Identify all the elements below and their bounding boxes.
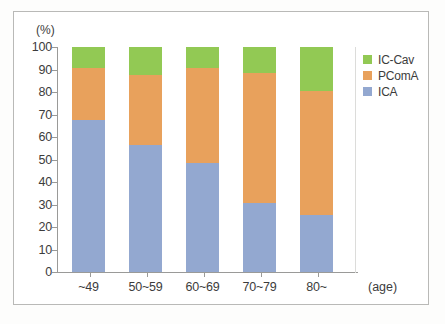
bar-segment-ica (300, 215, 333, 272)
bar-segment-pcoma (300, 91, 333, 215)
y-tick-label-row: 70 (16, 109, 52, 121)
legend-swatch-icon (363, 71, 372, 80)
bar-segment-pcoma (72, 68, 105, 120)
y-tick-label: 70 (22, 109, 52, 122)
x-tick-label: 70~79 (230, 281, 290, 294)
legend-label: PComA (378, 70, 418, 82)
x-tick-mark (204, 272, 205, 277)
stacked-bar (300, 47, 333, 272)
legend-label: ICA (378, 86, 397, 98)
y-tick-mark (52, 92, 57, 93)
y-tick-label-row: 80 (16, 86, 52, 98)
y-tick-label: 50 (22, 154, 52, 167)
y-tick-label-row: 30 (16, 199, 52, 211)
bar-segment-ic-cav (186, 47, 219, 68)
x-tick-mark (318, 272, 319, 277)
x-axis-line (57, 272, 358, 273)
y-tick-label: 100 (22, 41, 52, 54)
y-tick-label: 10 (22, 244, 52, 257)
stacked-bar (129, 47, 162, 272)
y-tick-label-row: 100 (16, 41, 52, 53)
y-axis-line (57, 47, 58, 273)
y-tick-mark (52, 115, 57, 116)
y-tick-label-row: 90 (16, 64, 52, 76)
y-tick-label: 90 (22, 64, 52, 77)
y-tick-mark (52, 205, 57, 206)
bar-segment-ica (243, 203, 276, 272)
x-axis-unit-label: (age) (368, 281, 397, 294)
y-tick-label: 40 (22, 176, 52, 189)
stacked-bar (72, 47, 105, 272)
legend-item-ica[interactable]: ICA (363, 84, 425, 99)
x-tick-mark (147, 272, 148, 277)
y-tick-label-row: 20 (16, 221, 52, 233)
legend-swatch-icon (363, 55, 372, 64)
bar-segment-ica (72, 120, 105, 272)
y-tick-label-row: 50 (16, 154, 52, 166)
y-tick-label: 80 (22, 86, 52, 99)
x-tick-label: ~49 (59, 281, 119, 294)
x-tick-label: 60~69 (173, 281, 233, 294)
bar-segment-ica (129, 145, 162, 272)
x-tick-label: 50~59 (116, 281, 176, 294)
x-tick-label: 80~ (287, 281, 347, 294)
legend-label: IC-Cav (378, 54, 414, 66)
stacked-bar (186, 47, 219, 272)
chart-figure: (%) 0102030405060708090100 ~4950~5960~69… (0, 0, 445, 324)
bar-segment-pcoma (186, 68, 219, 163)
bar-segment-ic-cav (243, 47, 276, 73)
bar-segment-pcoma (243, 73, 276, 203)
y-tick-mark (52, 272, 57, 273)
bar-segment-ic-cav (129, 47, 162, 75)
y-tick-mark (52, 70, 57, 71)
legend-swatch-icon (363, 87, 372, 96)
y-tick-label-row: 60 (16, 131, 52, 143)
y-tick-label-row: 0 (16, 266, 52, 278)
chart-legend: IC-CavPComAICA (363, 52, 425, 100)
y-axis-unit-label: (%) (36, 24, 55, 36)
legend-item-pcoma[interactable]: PComA (363, 68, 425, 83)
legend-divider (355, 47, 356, 273)
y-tick-mark (52, 182, 57, 183)
y-tick-label: 20 (22, 221, 52, 234)
y-tick-label: 60 (22, 131, 52, 144)
bar-segment-pcoma (129, 75, 162, 145)
y-tick-mark (52, 160, 57, 161)
y-tick-label: 0 (22, 266, 52, 279)
y-tick-label-row: 40 (16, 176, 52, 188)
x-tick-mark (261, 272, 262, 277)
bar-segment-ica (186, 163, 219, 272)
y-tick-mark (52, 137, 57, 138)
bar-segment-ic-cav (72, 47, 105, 68)
x-tick-mark (90, 272, 91, 277)
y-tick-label-row: 10 (16, 244, 52, 256)
stacked-bar (243, 47, 276, 272)
y-tick-mark (52, 227, 57, 228)
bar-segment-ic-cav (300, 47, 333, 91)
y-tick-label: 30 (22, 199, 52, 212)
legend-item-ic-cav[interactable]: IC-Cav (363, 52, 425, 67)
y-tick-mark (52, 47, 57, 48)
y-tick-mark (52, 250, 57, 251)
